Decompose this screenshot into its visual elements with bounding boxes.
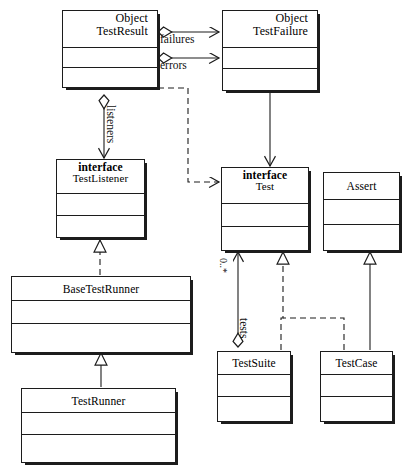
class-name-base-test-runner: BaseTestRunner [63, 283, 140, 295]
class-box-test[interactable]: interface Test [221, 167, 309, 251]
class-attributes-assert [324, 200, 399, 225]
class-operations-base-test-runner [12, 324, 190, 352]
class-operations-test-suite [218, 397, 290, 421]
class-operations-test [222, 227, 308, 250]
class-box-base-test-runner[interactable]: BaseTestRunner [11, 276, 191, 353]
class-box-test-listener[interactable]: interface TestListener [56, 159, 145, 238]
class-name-test-result: TestResult [63, 25, 148, 38]
class-header-base-test-runner: BaseTestRunner [12, 277, 190, 301]
edge-label-suite-multiplicity: 0..* [218, 258, 229, 273]
class-name-test: Test [222, 181, 308, 193]
class-attributes-test [222, 204, 308, 227]
class-attributes-test-failure [223, 48, 317, 69]
class-attributes-test-suite [218, 375, 290, 397]
class-header-test-runner: TestRunner [22, 389, 175, 413]
class-operations-test-failure [223, 69, 317, 90]
edge-label-errors: errors [160, 59, 187, 71]
class-name-test-case: TestCase [335, 357, 377, 369]
class-box-assert[interactable]: Assert [323, 172, 400, 251]
class-operations-assert [324, 225, 399, 250]
class-header-test: interface Test [222, 168, 308, 204]
class-name-assert: Assert [347, 180, 377, 192]
class-attributes-base-test-runner [12, 301, 190, 324]
class-box-test-suite[interactable]: TestSuite [217, 351, 291, 422]
class-header-test-listener: interface TestListener [57, 160, 144, 194]
class-attributes-test-case [321, 375, 392, 397]
class-attributes-test-runner [22, 413, 175, 435]
class-operations-test-listener [57, 216, 144, 237]
class-header-test-case: TestCase [321, 352, 392, 375]
class-operations-test-runner [22, 435, 175, 462]
class-name-test-runner: TestRunner [72, 395, 126, 407]
class-attributes-test-result [63, 48, 157, 68]
edge-label-listeners: listeners [105, 105, 117, 143]
class-operations-test-case [321, 397, 392, 421]
edge-testsuite-implements-test [281, 252, 283, 350]
class-operations-test-result [63, 68, 157, 87]
uml-class-diagram: failures errors listeners tests 0..* Obj… [0, 0, 404, 474]
edge-label-failures: failures [160, 33, 194, 45]
class-stereotype-test-failure: Object [223, 12, 308, 25]
class-box-test-runner[interactable]: TestRunner [21, 388, 176, 463]
class-box-test-failure[interactable]: Object TestFailure [222, 10, 318, 91]
class-stereotype-test-result: Object [63, 12, 148, 25]
class-header-test-failure: Object TestFailure [223, 11, 317, 48]
class-box-test-case[interactable]: TestCase [320, 351, 393, 422]
class-header-test-suite: TestSuite [218, 352, 290, 375]
class-box-test-result[interactable]: Object TestResult [62, 10, 158, 88]
class-name-test-failure: TestFailure [223, 25, 308, 38]
edge-result-uses-test [158, 88, 219, 182]
class-attributes-test-listener [57, 194, 144, 216]
edge-testcase-implements-test [283, 318, 344, 350]
class-name-test-listener: TestListener [57, 173, 144, 185]
class-header-test-result: Object TestResult [63, 11, 157, 48]
class-header-assert: Assert [324, 173, 399, 200]
class-name-test-suite: TestSuite [232, 357, 276, 369]
edge-label-tests: tests [238, 318, 250, 338]
